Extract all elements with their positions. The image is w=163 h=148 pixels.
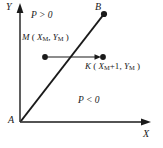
point-m-name: M (22, 32, 30, 42)
mk-arrowhead (95, 54, 102, 59)
diagram-canvas (0, 0, 163, 148)
y-axis-label: Y (6, 2, 12, 12)
y-axis-arrowhead (17, 3, 24, 13)
k-paren-close: ) (137, 61, 140, 71)
region-label-p-negative: P < 0 (78, 96, 100, 106)
x-axis-arrowhead (141, 119, 151, 126)
point-k-coordinate-label: K ( XM+1, YM ) (85, 62, 140, 72)
k-plus-one: +1 (110, 61, 120, 71)
region-label-p-positive: P > 0 (31, 11, 53, 21)
m-paren-close: ) (66, 32, 69, 42)
x-axis-label: X (143, 129, 149, 139)
point-m-coordinate-label: M ( XM, YM ) (22, 33, 69, 43)
point-b-label: B (95, 2, 101, 12)
point-b-marker (101, 11, 107, 17)
coordinate-diagram: Y X A B P > 0 P < 0 M ( XM, YM ) K ( XM+… (0, 0, 163, 148)
point-a-label: A (8, 115, 14, 125)
